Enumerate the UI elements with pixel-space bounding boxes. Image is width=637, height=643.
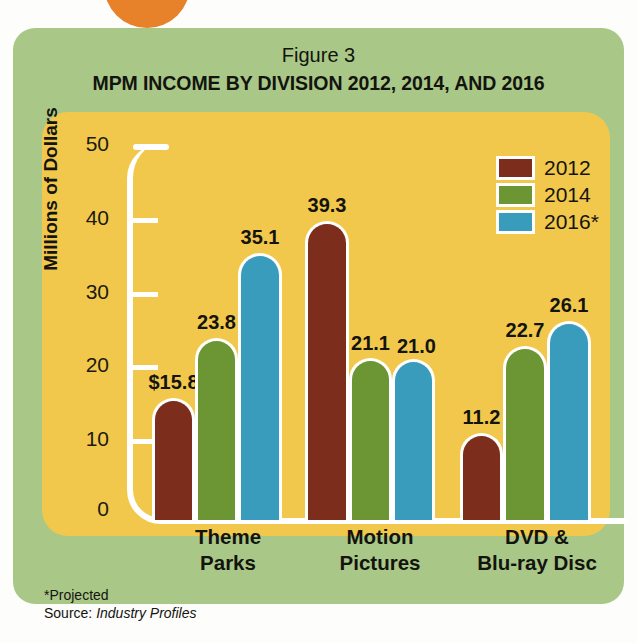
y-axis-title: Millions of Dollars bbox=[40, 89, 62, 289]
bar-motion-pictures-2014[interactable]: 21.1 bbox=[352, 361, 389, 520]
legend-label-2016: 2016* bbox=[544, 210, 599, 234]
bar-value-theme-parks-2016: 35.1 bbox=[241, 226, 280, 249]
bar-value-dvd-bluray-2012: 11.2 bbox=[463, 406, 501, 429]
bar-value-motion-pictures-2012: 39.3 bbox=[308, 194, 347, 217]
category-label-dvd-bluray: DVD & Blu-ray Disc bbox=[457, 524, 617, 576]
y-tick-label-10: 10 bbox=[69, 427, 109, 451]
figure-title: MPM INCOME BY DIVISION 2012, 2014, AND 2… bbox=[13, 72, 624, 95]
legend-item-2014[interactable]: 2014 bbox=[499, 181, 599, 208]
bar-theme-parks-2014[interactable]: 23.8 bbox=[198, 341, 235, 520]
footnote-source-prefix: Source: bbox=[44, 605, 96, 621]
category-theme-parks-line2: Parks bbox=[163, 550, 293, 576]
bar-value-theme-parks-2012: $15.8 bbox=[148, 371, 198, 394]
category-motion-pictures-line2: Pictures bbox=[315, 550, 445, 576]
bar-motion-pictures-2016[interactable]: 21.0 bbox=[395, 362, 432, 520]
legend-item-2012[interactable]: 2012 bbox=[499, 154, 599, 181]
bar-value-dvd-bluray-2014: 22.7 bbox=[506, 319, 545, 342]
bar-dvd-bluray-2012[interactable]: 11.2 bbox=[463, 436, 500, 520]
category-dvd-bluray-line2: Blu-ray Disc bbox=[457, 550, 617, 576]
y-tick-label-40: 40 bbox=[69, 206, 109, 230]
category-theme-parks-line1: Theme bbox=[163, 524, 293, 550]
category-dvd-bluray-line1: DVD & bbox=[457, 524, 617, 550]
footnote-projected: *Projected bbox=[44, 587, 109, 603]
bar-theme-parks-2016[interactable]: 35.1 bbox=[241, 256, 279, 520]
bar-value-motion-pictures-2016: 21.0 bbox=[397, 335, 436, 358]
figure-page: Figure 3 MPM INCOME BY DIVISION 2012, 20… bbox=[0, 0, 637, 643]
orange-circle-decoration bbox=[104, 0, 190, 28]
legend-label-2014: 2014 bbox=[544, 183, 591, 207]
legend-swatch-2012 bbox=[499, 159, 532, 177]
legend: 2012 2014 2016* bbox=[499, 154, 599, 235]
bar-motion-pictures-2012[interactable]: 39.3 bbox=[308, 224, 346, 520]
category-label-motion-pictures: Motion Pictures bbox=[315, 524, 445, 576]
legend-item-2016[interactable]: 2016* bbox=[499, 208, 599, 235]
y-tick-label-30: 30 bbox=[69, 280, 109, 304]
category-motion-pictures-line1: Motion bbox=[315, 524, 445, 550]
bar-value-dvd-bluray-2016: 26.1 bbox=[550, 294, 589, 317]
bar-theme-parks-2012[interactable]: $15.8 bbox=[155, 401, 192, 520]
legend-label-2012: 2012 bbox=[544, 156, 591, 180]
bar-value-theme-parks-2014: 23.8 bbox=[197, 311, 236, 334]
legend-swatch-2014 bbox=[499, 186, 532, 204]
bar-value-motion-pictures-2014: 21.1 bbox=[351, 332, 390, 355]
y-tick-label-50: 50 bbox=[69, 132, 109, 156]
figure-number: Figure 3 bbox=[13, 44, 624, 67]
footnote-source-name: Industry Profiles bbox=[96, 605, 196, 621]
y-tick-label-0: 0 bbox=[69, 497, 109, 521]
footnote-source: Source: Industry Profiles bbox=[44, 605, 197, 621]
category-label-theme-parks: Theme Parks bbox=[163, 524, 293, 576]
legend-swatch-2016 bbox=[499, 213, 532, 231]
bar-dvd-bluray-2014[interactable]: 22.7 bbox=[506, 349, 544, 520]
bar-dvd-bluray-2016[interactable]: 26.1 bbox=[550, 324, 588, 520]
y-tick-label-20: 20 bbox=[69, 353, 109, 377]
figure-card: Figure 3 MPM INCOME BY DIVISION 2012, 20… bbox=[13, 28, 624, 604]
